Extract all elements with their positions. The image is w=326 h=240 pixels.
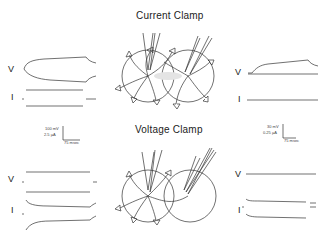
vc-right-current-trace [242, 199, 316, 218]
cc-left-voltage-trace [24, 57, 96, 82]
vc-left-voltage-trace [22, 172, 97, 192]
vc-left-current-trace [22, 200, 96, 230]
figure-graphics [0, 0, 326, 240]
left-scale-bar [63, 126, 80, 140]
vc-cell-diagram [115, 148, 216, 225]
cc-left-current-trace [22, 90, 96, 106]
right-scale-bar [283, 124, 296, 138]
cc-cell-diagram [115, 33, 214, 109]
cc-right-voltage-trace [248, 60, 318, 74]
